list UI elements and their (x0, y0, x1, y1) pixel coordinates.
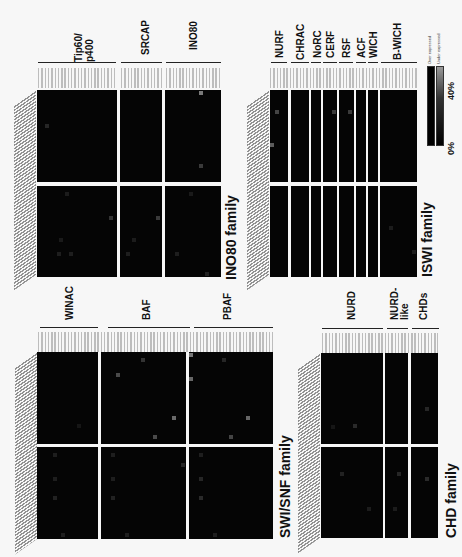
heatmap-panel-chrac-top (291, 90, 309, 182)
label-rsf: RSF (341, 38, 352, 58)
heatmap-panel-rsf-bottom (339, 186, 354, 277)
heat-cell (77, 424, 81, 428)
heatmap-panel-pbaf-top (189, 352, 273, 444)
heat-cell (45, 124, 49, 128)
group-line (166, 62, 221, 63)
group-line (322, 328, 383, 329)
heat-cell (270, 143, 274, 147)
heat-cell (332, 110, 336, 114)
heatmap-panel-nurdlike-bottom (385, 447, 408, 538)
heat-cell (331, 425, 335, 429)
heat-cell (65, 192, 69, 196)
heat-cell (425, 477, 429, 481)
group-line (387, 328, 408, 329)
legend-over-label: Over expressed (427, 36, 432, 64)
label-srcap: SRCAP (140, 20, 151, 55)
row-sample-labels (247, 90, 269, 290)
heat-cell (340, 472, 344, 476)
heatmap-panel-acf-bottom (356, 186, 366, 277)
heatmap-panel-tip60-bottom (37, 186, 117, 277)
legend-under-label: Under expressed (436, 34, 441, 64)
group-line (40, 327, 98, 328)
heat-cell (69, 252, 73, 256)
heat-cell (199, 91, 203, 95)
heatmap-panel-cerf-top (323, 90, 337, 182)
legend-min-label: 0% (446, 142, 456, 155)
heatmap-panel-srcap-bottom (120, 186, 162, 277)
heatmap-panel-nurdlike-top (385, 353, 408, 444)
heatmap-panel-norc-bottom (311, 186, 321, 277)
group-line (291, 62, 309, 63)
heat-cell (61, 533, 65, 537)
row-sample-labels (15, 352, 37, 554)
heat-cell (189, 377, 193, 381)
label-chds: CHDs (418, 293, 429, 320)
heatmap-panel-acf-top (356, 90, 366, 182)
family-label-chd: CHD family (443, 463, 459, 538)
heat-cell (205, 272, 209, 276)
heatmap-panel-baf-top (101, 352, 186, 444)
heat-cell (425, 407, 429, 411)
heatmap-panel-chds-top (411, 353, 438, 444)
heatmap-panel-norc-top (311, 90, 321, 182)
label-p400: p400 (84, 39, 95, 62)
heat-cell (348, 110, 352, 114)
heatmap-panel-nurd-top (321, 353, 383, 444)
label-nurd-like-2: like (399, 303, 410, 320)
legend-over-expressed-bar (427, 66, 435, 146)
label-chrac: CHRAC (295, 24, 306, 60)
label-bwich: B-WICH (392, 23, 403, 60)
group-line (323, 62, 337, 63)
heatmap-panel-winac-bottom (37, 447, 98, 539)
legend-under-expressed-bar (436, 66, 444, 146)
heatmap-panel-chrac-bottom (291, 186, 309, 277)
heat-cell (111, 453, 115, 457)
group-line (339, 62, 353, 63)
heat-cell (367, 507, 371, 511)
label-tip60: Tip60/ (73, 33, 84, 62)
heat-cell (246, 416, 250, 420)
label-ino80: INO80 (188, 21, 199, 50)
group-line (271, 62, 287, 63)
heatmap-panel-bwich-top (380, 90, 417, 182)
column-gene-labels (38, 68, 116, 88)
heat-cell (175, 252, 179, 256)
heat-cell (153, 435, 157, 439)
legend-max-label: 40% (446, 82, 456, 100)
heat-cell (53, 496, 57, 500)
heatmap-panel-tip60-top (37, 90, 117, 182)
heatmap-panel-chds-bottom (411, 447, 438, 538)
row-sample-labels (14, 90, 36, 290)
heatmap-panel-winac-top (37, 352, 98, 444)
family-label-ino80: INO80 family (223, 195, 239, 280)
heatmap-panel-ino80-bottom (165, 186, 221, 277)
label-nurd: NURD (346, 291, 357, 320)
label-pbaf: PBAF (222, 293, 233, 320)
heat-cell (53, 477, 57, 481)
label-winac: WINAC (64, 286, 75, 320)
heat-cell (189, 192, 193, 196)
heat-cell (199, 496, 203, 500)
column-gene-labels (270, 68, 417, 88)
heat-cell (199, 164, 203, 168)
group-line (356, 62, 366, 63)
row-sample-labels (298, 353, 320, 553)
heat-cell (393, 507, 397, 511)
label-wich: WICH (368, 31, 379, 58)
heat-cell (353, 424, 357, 428)
heatmap-panel-nurf-bottom (270, 186, 288, 277)
heat-cell (397, 472, 401, 476)
heat-cell (125, 533, 129, 537)
heatmap-panel-rsf-top (339, 90, 354, 182)
heatmap-panel-bwich-bottom (380, 186, 417, 277)
heat-cell (213, 533, 217, 537)
column-gene-labels (166, 68, 221, 88)
heat-cell (111, 477, 115, 481)
heat-cell (109, 216, 113, 220)
heat-cell (132, 238, 136, 242)
heat-cell (199, 453, 203, 457)
heat-cell (141, 358, 145, 362)
group-line (412, 328, 439, 329)
heat-cell (189, 353, 193, 357)
heat-cell (412, 250, 416, 254)
